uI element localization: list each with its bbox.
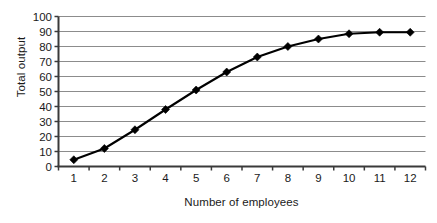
data-point-markers: [70, 28, 414, 164]
total-output-curve: [74, 32, 410, 160]
data-point-marker: [284, 43, 292, 51]
data-point-marker: [314, 35, 322, 43]
data-point-marker: [253, 53, 261, 61]
data-point-marker: [406, 28, 414, 36]
data-point-marker: [345, 30, 353, 38]
plot-area: [0, 0, 437, 223]
x-axis-title: Number of employees: [58, 196, 425, 208]
total-output-line-chart: Total output 0102030405060708090100 1234…: [0, 0, 437, 223]
data-point-marker: [70, 156, 78, 164]
gridlines: [59, 17, 426, 152]
data-point-marker: [376, 28, 384, 36]
